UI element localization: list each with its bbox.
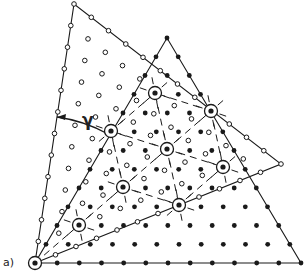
filled-lattice-dot bbox=[232, 186, 237, 191]
open-lattice-dot bbox=[63, 188, 68, 193]
filled-lattice-dot bbox=[121, 148, 126, 153]
csl-dashed-line bbox=[155, 93, 211, 111]
csl-tick bbox=[111, 193, 116, 198]
csl-tick bbox=[99, 137, 104, 142]
filled-lattice-dot bbox=[188, 223, 193, 228]
open-lattice-dot bbox=[120, 63, 125, 68]
open-lattice-dot bbox=[227, 122, 232, 127]
open-lattice-dot bbox=[59, 88, 64, 93]
filled-lattice-dot bbox=[121, 261, 126, 266]
filled-lattice-dot bbox=[99, 186, 104, 191]
open-lattice-dot bbox=[49, 153, 54, 158]
open-lattice-dot bbox=[124, 42, 129, 47]
csl-tick bbox=[169, 158, 170, 165]
open-lattice-dot bbox=[186, 138, 191, 143]
open-lattice-dot bbox=[207, 130, 212, 135]
open-lattice-dot bbox=[46, 174, 51, 179]
open-lattice-dot bbox=[175, 82, 180, 87]
filled-lattice-dot bbox=[276, 223, 281, 228]
open-lattice-dot bbox=[69, 23, 74, 28]
open-lattice-triangle bbox=[35, 4, 281, 263]
open-lattice-dot bbox=[98, 214, 103, 219]
open-lattice-dot bbox=[180, 181, 185, 186]
filled-lattice-dot bbox=[187, 186, 192, 191]
open-lattice-dot bbox=[97, 93, 102, 98]
csl-tick bbox=[67, 231, 72, 236]
filled-lattice-dot bbox=[276, 261, 281, 266]
open-lattice-dot bbox=[60, 209, 65, 214]
filled-lattice-dot bbox=[243, 242, 248, 247]
filled-lattice-dot bbox=[66, 242, 71, 247]
filled-lattice-dot bbox=[199, 204, 204, 209]
filled-lattice-dot bbox=[154, 129, 159, 134]
open-lattice-dot bbox=[238, 178, 243, 183]
filled-lattice-dot bbox=[177, 242, 182, 247]
filled-lattice-dot bbox=[232, 223, 237, 228]
open-lattice-dot bbox=[217, 187, 222, 192]
csl-tick bbox=[186, 195, 191, 200]
csl-tick bbox=[181, 214, 182, 221]
csl-tick bbox=[108, 115, 109, 122]
filled-lattice-dot bbox=[110, 204, 115, 209]
filled-lattice-dot bbox=[77, 261, 82, 266]
filled-lattice-dot bbox=[99, 261, 104, 266]
open-lattice-dot bbox=[189, 117, 194, 122]
csl-dashed-line bbox=[179, 167, 223, 205]
filled-lattice-dot bbox=[143, 261, 148, 266]
open-lattice-dot bbox=[70, 145, 75, 150]
open-lattice-dot bbox=[183, 160, 188, 165]
filled-lattice-dot bbox=[232, 261, 237, 266]
filled-lattice-dot bbox=[187, 111, 192, 116]
filled-lattice-dot bbox=[154, 204, 159, 209]
filled-lattice-dot bbox=[209, 148, 214, 153]
open-lattice-dot bbox=[141, 55, 146, 60]
filled-lattice-dot bbox=[143, 223, 148, 228]
open-lattice-dot bbox=[156, 211, 161, 216]
filled-lattice-dot bbox=[232, 148, 237, 153]
open-lattice-dot bbox=[128, 141, 133, 146]
open-lattice-dot bbox=[135, 220, 140, 225]
open-lattice-dot bbox=[107, 150, 112, 155]
open-lattice-dot bbox=[84, 180, 89, 185]
filled-lattice-dot bbox=[44, 242, 49, 247]
open-lattice-dots bbox=[36, 2, 283, 257]
open-lattice-dot bbox=[172, 103, 177, 108]
filled-lattice-dot bbox=[187, 148, 192, 153]
open-lattice-dot bbox=[90, 136, 95, 141]
filled-lattice-dot bbox=[154, 242, 159, 247]
csl-tick bbox=[218, 101, 223, 106]
filled-lattice-dot bbox=[110, 242, 115, 247]
filled-lattice-dot bbox=[143, 186, 148, 191]
csl-tick bbox=[140, 88, 147, 90]
filled-lattice-dot bbox=[143, 111, 148, 116]
open-lattice-dot bbox=[83, 58, 88, 63]
open-lattice-dot bbox=[162, 168, 167, 173]
open-lattice-dot bbox=[117, 85, 122, 90]
open-lattice-dot bbox=[193, 95, 198, 100]
open-lattice-dot bbox=[114, 107, 119, 112]
open-lattice-dot bbox=[131, 120, 136, 125]
lattice-rotation-diagram bbox=[0, 0, 308, 273]
filled-lattice-dot bbox=[154, 167, 159, 172]
csl-tick bbox=[199, 117, 204, 122]
open-lattice-dot bbox=[39, 218, 44, 223]
open-lattice-dot bbox=[66, 166, 71, 171]
open-lattice-dot bbox=[134, 98, 139, 103]
csl-tick bbox=[167, 211, 172, 216]
open-lattice-dot bbox=[106, 28, 111, 33]
filled-lattice-dot bbox=[254, 223, 259, 228]
filled-lattice-dot bbox=[99, 223, 104, 228]
csl-tick bbox=[208, 95, 209, 102]
open-lattice-dot bbox=[244, 135, 249, 140]
open-lattice-dot bbox=[169, 125, 174, 130]
open-lattice-dot bbox=[224, 143, 229, 148]
filled-lattice-dot bbox=[110, 167, 115, 172]
coincidence-site-dot bbox=[32, 260, 37, 265]
open-lattice-dot bbox=[86, 37, 91, 42]
open-lattice-dot bbox=[57, 231, 62, 236]
angle-gamma-symbol: γ bbox=[82, 110, 94, 130]
filled-lattice-dot bbox=[299, 261, 304, 266]
filled-lattice-dot bbox=[55, 261, 60, 266]
csl-tick bbox=[76, 209, 77, 216]
filled-lattice-dot bbox=[210, 261, 215, 266]
